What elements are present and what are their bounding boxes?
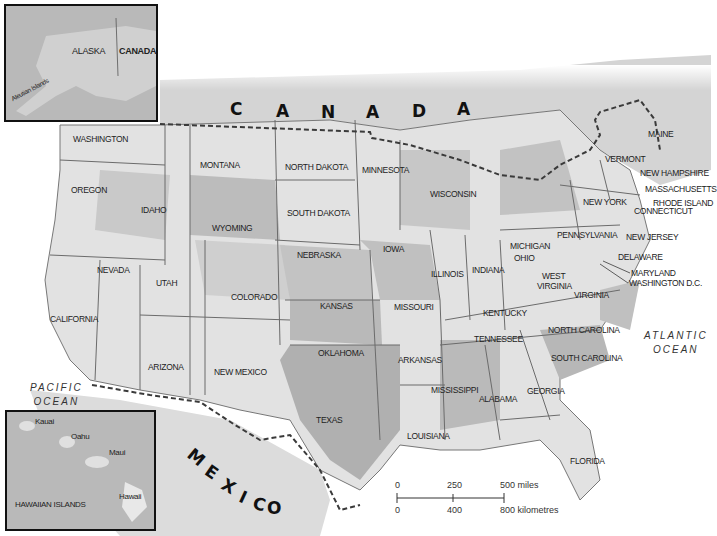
canada-letter-c: C bbox=[230, 99, 242, 119]
state-nebraska: NEBRASKA bbox=[297, 251, 341, 260]
state-idaho: IDAHO bbox=[141, 206, 166, 215]
canada-letter-a3: A bbox=[457, 99, 470, 119]
hawaiian-islands-title: HAWAIIAN ISLANDS bbox=[15, 500, 86, 509]
state-new-york: NEW YORK bbox=[583, 198, 627, 207]
atlantic-line-2: OCEAN bbox=[644, 343, 708, 357]
state-ohio: OHIO bbox=[514, 254, 535, 263]
state-west-virginia-line1: WEST bbox=[542, 272, 565, 281]
canada-letter-n: N bbox=[321, 102, 335, 122]
state-virginia: VIRGINIA bbox=[574, 291, 609, 300]
state-kentucky: KENTUCKY bbox=[483, 309, 527, 318]
state-new-hampshire: NEW HAMPSHIRE bbox=[640, 169, 709, 178]
state-arkansas: ARKANSAS bbox=[398, 356, 442, 365]
pacific-line-1: PACIFIC bbox=[30, 381, 83, 395]
state-pennsylvania: PENNSYLVANIA bbox=[557, 231, 617, 240]
hawaii-relief bbox=[7, 412, 154, 529]
state-iowa: IOWA bbox=[383, 245, 404, 254]
state-west-virginia-line2: VIRGINIA bbox=[537, 282, 572, 291]
pacific-line-2: OCEAN bbox=[30, 395, 83, 409]
state-new-jersey: NEW JERSEY bbox=[626, 233, 678, 242]
state-maine: MAINE bbox=[648, 130, 673, 139]
atlantic-line-1: ATLANTIC bbox=[644, 329, 708, 343]
state-arizona: ARIZONA bbox=[148, 363, 184, 372]
state-utah: UTAH bbox=[156, 279, 177, 288]
state-california: CALIFORNIA bbox=[50, 315, 98, 324]
oahu-label: Oahu bbox=[71, 432, 89, 441]
hawaii-label: Hawaii bbox=[119, 492, 141, 501]
state-louisiana: LOUISIANA bbox=[407, 432, 450, 441]
state-illinois: ILLINOIS bbox=[431, 270, 464, 279]
scale-km-0: 0 bbox=[395, 505, 400, 515]
state-minnesota: MINNESOTA bbox=[362, 166, 409, 175]
scale-km-400: 400 bbox=[447, 505, 462, 515]
state-indiana: INDIANA bbox=[472, 266, 504, 275]
state-kansas: KANSAS bbox=[320, 302, 353, 311]
state-delaware: DELAWARE bbox=[618, 253, 663, 262]
alaska-inset: ALASKA CANADA Aleutian Islands bbox=[4, 4, 158, 122]
mexico-letter-o: O bbox=[267, 498, 281, 518]
state-tennessee: TENNESSEE bbox=[474, 335, 523, 344]
kauai-label: Kauai bbox=[35, 417, 54, 426]
state-oklahoma: OKLAHOMA bbox=[318, 349, 364, 358]
state-washington: WASHINGTON bbox=[73, 135, 128, 144]
alaska-label: ALASKA bbox=[72, 46, 105, 56]
alaska-relief bbox=[6, 6, 156, 120]
state-georgia: GEORGIA bbox=[527, 387, 565, 396]
state-south-carolina: SOUTH CAROLINA bbox=[551, 354, 622, 363]
state-washington-dc: WASHINGTON D.C. bbox=[629, 279, 702, 288]
state-massachusetts: MASSACHUSETTS bbox=[645, 185, 717, 194]
state-wisconsin: WISCONSIN bbox=[430, 190, 476, 199]
state-vermont: VERMONT bbox=[605, 155, 645, 164]
state-south-dakota: SOUTH DAKOTA bbox=[287, 209, 350, 218]
hawaii-inset: Kauai Oahu Maui Hawaii HAWAIIAN ISLANDS bbox=[5, 410, 156, 531]
canada-letter-a1: A bbox=[276, 101, 289, 121]
state-nevada: NEVADA bbox=[97, 266, 130, 275]
pacific-ocean-label: PACIFIC OCEAN bbox=[30, 381, 83, 408]
state-north-dakota: NORTH DAKOTA bbox=[285, 163, 348, 172]
state-connecticut: CONNECTICUT bbox=[634, 207, 693, 216]
state-missouri: MISSOURI bbox=[394, 303, 434, 312]
state-oregon: OREGON bbox=[71, 186, 107, 195]
scale-bar: 0 250 500 miles 0 400 800 kilometres bbox=[393, 480, 543, 516]
alaska-canada-label: CANADA bbox=[119, 46, 156, 56]
state-new-mexico: NEW MEXICO bbox=[214, 368, 267, 377]
canada-letter-a2: A bbox=[366, 102, 379, 122]
atlantic-ocean-label: ATLANTIC OCEAN bbox=[644, 329, 708, 356]
state-texas: TEXAS bbox=[316, 416, 342, 425]
state-mississippi: MISSISSIPPI bbox=[431, 386, 478, 395]
state-colorado: COLORADO bbox=[231, 293, 277, 302]
state-north-carolina: NORTH CAROLINA bbox=[548, 326, 620, 335]
state-florida: FLORIDA bbox=[570, 457, 605, 466]
state-michigan: MICHIGAN bbox=[510, 242, 550, 251]
scale-km-800: 800 kilometres bbox=[500, 505, 559, 515]
state-montana: MONTANA bbox=[200, 161, 240, 170]
state-maryland: MARYLAND bbox=[631, 269, 676, 278]
state-alabama: ALABAMA bbox=[479, 395, 517, 404]
maui-label: Maui bbox=[109, 448, 125, 457]
canada-letter-d: D bbox=[412, 101, 426, 121]
state-wyoming: WYOMING bbox=[212, 224, 252, 233]
